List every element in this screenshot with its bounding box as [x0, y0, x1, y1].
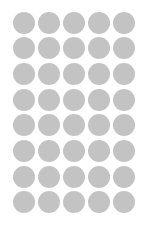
dot-icon — [113, 63, 135, 85]
dot-cell — [111, 164, 136, 190]
dot-icon — [13, 89, 35, 111]
dot-cell — [61, 61, 86, 87]
dot-row — [11, 61, 136, 87]
dot-row — [11, 113, 136, 139]
dot-icon — [13, 140, 35, 162]
dot-grid-sheet — [0, 0, 147, 226]
dot-cell — [111, 113, 136, 139]
dot-icon — [113, 191, 135, 213]
dot-cell — [36, 36, 61, 62]
dot-cell — [86, 61, 111, 87]
dot-cell — [86, 189, 111, 215]
dot-cell — [61, 164, 86, 190]
dot-cell — [111, 36, 136, 62]
dot-icon — [113, 89, 135, 111]
dot-cell — [36, 61, 61, 87]
dot-cell — [86, 113, 111, 139]
dot-cell — [36, 113, 61, 139]
dot-cell — [36, 164, 61, 190]
dot-row — [11, 164, 136, 190]
dot-cell — [111, 189, 136, 215]
dot-cell — [111, 10, 136, 36]
dot-icon — [63, 37, 85, 59]
dot-icon — [88, 166, 110, 188]
dot-cell — [61, 10, 86, 36]
dot-icon — [13, 114, 35, 136]
dot-icon — [38, 89, 60, 111]
dot-cell — [11, 189, 36, 215]
dot-cell — [86, 164, 111, 190]
dot-cell — [86, 10, 111, 36]
dot-icon — [88, 191, 110, 213]
dot-icon — [88, 63, 110, 85]
dot-cell — [36, 87, 61, 113]
dot-icon — [13, 191, 35, 213]
dot-row — [11, 10, 136, 36]
dot-icon — [13, 12, 35, 34]
dot-cell — [111, 87, 136, 113]
dot-icon — [88, 12, 110, 34]
dot-cell — [86, 138, 111, 164]
dot-cell — [36, 10, 61, 36]
dot-cell — [61, 189, 86, 215]
dot-icon — [63, 191, 85, 213]
dot-cell — [61, 87, 86, 113]
dot-cell — [11, 113, 36, 139]
dot-icon — [113, 166, 135, 188]
dot-icon — [88, 37, 110, 59]
dot-cell — [11, 164, 36, 190]
dot-cell — [36, 138, 61, 164]
dot-icon — [38, 191, 60, 213]
dot-icon — [113, 140, 135, 162]
dot-cell — [11, 87, 36, 113]
dot-row — [11, 138, 136, 164]
dot-icon — [63, 63, 85, 85]
dot-cell — [36, 189, 61, 215]
dot-icon — [113, 12, 135, 34]
dot-cell — [11, 61, 36, 87]
dot-row — [11, 189, 136, 215]
dot-cell — [61, 113, 86, 139]
dot-icon — [38, 114, 60, 136]
dot-icon — [113, 114, 135, 136]
dot-cell — [11, 10, 36, 36]
dot-icon — [13, 37, 35, 59]
dot-cell — [111, 138, 136, 164]
dot-cell — [11, 36, 36, 62]
dot-icon — [63, 12, 85, 34]
dot-icon — [38, 140, 60, 162]
dot-cell — [11, 138, 36, 164]
dot-icon — [88, 89, 110, 111]
dot-row — [11, 36, 136, 62]
dot-cell — [61, 36, 86, 62]
dot-icon — [38, 12, 60, 34]
dot-icon — [113, 37, 135, 59]
dot-icon — [38, 63, 60, 85]
dot-icon — [63, 140, 85, 162]
dot-cell — [61, 138, 86, 164]
dot-cell — [86, 36, 111, 62]
dot-icon — [13, 63, 35, 85]
dot-icon — [63, 89, 85, 111]
dot-row — [11, 87, 136, 113]
dot-icon — [13, 166, 35, 188]
dot-icon — [63, 166, 85, 188]
dot-icon — [63, 114, 85, 136]
dot-icon — [38, 166, 60, 188]
dot-cell — [86, 87, 111, 113]
dot-cell — [111, 61, 136, 87]
dot-grid — [0, 0, 147, 226]
dot-icon — [88, 140, 110, 162]
dot-icon — [88, 114, 110, 136]
dot-icon — [38, 37, 60, 59]
